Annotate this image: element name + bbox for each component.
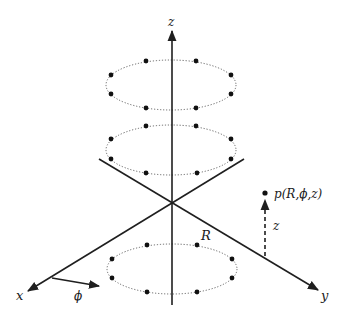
- y-axis-label: y: [320, 288, 329, 303]
- cylindrical-coordinates-diagram: z x y ϕ R p(R,ϕ,z) z: [0, 0, 350, 319]
- radius-label: R: [200, 228, 211, 243]
- y-axis: [99, 159, 318, 290]
- point-label: p(R,ϕ,z): [274, 187, 323, 201]
- middle-ring: [106, 124, 236, 176]
- height-z-label: z: [272, 219, 280, 233]
- x-axis-label: x: [16, 288, 24, 303]
- phi-label: ϕ: [74, 289, 82, 303]
- upper-ring: [106, 59, 236, 111]
- x-axis: [28, 159, 244, 291]
- z-axis-label: z: [167, 15, 175, 29]
- point-p: [262, 190, 267, 195]
- phi-angle-arrow: [52, 278, 99, 286]
